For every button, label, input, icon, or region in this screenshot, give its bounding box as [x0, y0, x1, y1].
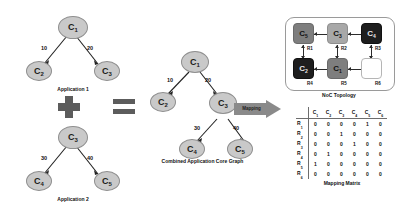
- app2-edge-weight-c3-c4: 30: [41, 155, 47, 161]
- matrix-cell: 0: [348, 119, 361, 130]
- matrix-cell: 0: [374, 119, 387, 130]
- plus-operator-icon: [58, 96, 80, 118]
- table-row: R1 0 0 0 0 1 0: [296, 119, 387, 130]
- matrix-col-header-c3: C3: [335, 107, 348, 119]
- noc-tile-r6: [361, 58, 382, 79]
- table-row: R6 0 0 0 0 0 0: [296, 169, 387, 179]
- matrix-cell: 0: [361, 139, 374, 149]
- matrix-cell: 0: [335, 169, 348, 179]
- matrix-cell: 0: [348, 169, 361, 179]
- combined-node-c5: C5: [227, 139, 253, 159]
- noc-router-label-r3: R3: [375, 46, 381, 51]
- matrix-cell: 0: [361, 149, 374, 159]
- application-1-caption: Application 1: [38, 86, 108, 92]
- mapping-matrix-caption: Mapping Matrix: [296, 180, 388, 186]
- matrix-cell: 0: [309, 139, 323, 149]
- matrix-cell: 1: [348, 139, 361, 149]
- combined-node-c1-label: C1: [190, 58, 200, 67]
- combined-node-c1: C1: [181, 51, 209, 73]
- app1-node-c1-label: C1: [68, 23, 78, 32]
- noc-router-label-r1: R1: [307, 46, 313, 51]
- matrix-row-header-r6: R6: [296, 169, 309, 179]
- matrix-cell: 1: [322, 149, 335, 159]
- noc-tile-r5: C1: [327, 58, 348, 79]
- equals-operator-icon: [113, 99, 135, 115]
- mapping-arrow: Mapping: [234, 100, 282, 118]
- noc-link-r3-r6-arrow-up-icon: [369, 45, 373, 48]
- combined-node-c5-label: C5: [235, 145, 245, 154]
- noc-tile-r2: C3: [327, 23, 348, 44]
- app2-node-c4-label: C4: [34, 177, 44, 186]
- app1-node-c1: C1: [58, 16, 88, 39]
- noc-tile-r1-core-label: C5: [299, 30, 308, 38]
- combined-graph-caption: Combined Application Core Graph: [145, 158, 260, 164]
- matrix-cell: 0: [335, 159, 348, 169]
- matrix-cell: 1: [309, 159, 323, 169]
- matrix-cell: 0: [309, 129, 323, 139]
- combined-node-c3: C3: [209, 92, 237, 114]
- matrix-cell: 0: [322, 139, 335, 149]
- combined-edge-weight-c3-c4: 30: [194, 125, 200, 131]
- matrix-cell: 0: [335, 139, 348, 149]
- matrix-cell: 0: [361, 159, 374, 169]
- matrix-cell: 0: [361, 129, 374, 139]
- mapping-arrow-label: Mapping: [236, 105, 267, 113]
- matrix-cell: 1: [361, 119, 374, 130]
- app1-node-c2: C2: [26, 61, 52, 81]
- app2-node-c5: C5: [94, 171, 120, 191]
- app1-edge-weight-c1-c3: 20: [87, 45, 93, 51]
- matrix-cell: 0: [348, 159, 361, 169]
- noc-link-r1-r2-arrow-left-icon: [314, 32, 317, 36]
- matrix-cell: 0: [374, 149, 387, 159]
- matrix-cell: 0: [374, 169, 387, 179]
- app2-node-c4: C4: [26, 171, 52, 191]
- matrix-cell: 0: [309, 169, 323, 179]
- noc-link-r1-r4-arrow-up-icon: [301, 45, 305, 48]
- noc-router-label-r4: R4: [307, 81, 313, 86]
- matrix-cell: 0: [309, 149, 323, 159]
- combined-node-c3-label: C3: [218, 99, 228, 108]
- noc-tile-r2-core-label: C3: [333, 30, 342, 38]
- matrix-cell: 0: [322, 159, 335, 169]
- matrix-corner-cell: [296, 107, 309, 119]
- matrix-cell: 0: [335, 149, 348, 159]
- matrix-row-header-r2: R2: [296, 129, 309, 139]
- table-row: R5 1 0 0 0 0 0: [296, 159, 387, 169]
- noc-tile-r3-core-label: C4: [367, 30, 376, 38]
- application-2-graph: C3 C4 C5 30 40 Application 2: [10, 118, 130, 203]
- matrix-row-header-r4: R4: [296, 149, 309, 159]
- noc-router-label-r6: R6: [375, 81, 381, 86]
- noc-tile-r4-core-label: C2: [299, 65, 308, 73]
- matrix-cell: 0: [322, 119, 335, 130]
- app2-node-c3-label: C3: [68, 133, 78, 142]
- app1-node-c3-label: C3: [102, 67, 112, 76]
- matrix-row-header-r1: R1: [296, 119, 309, 130]
- table-row: R3 0 0 0 1 0 0: [296, 139, 387, 149]
- combined-node-c2: C2: [150, 92, 176, 112]
- matrix-cell: 0: [322, 129, 335, 139]
- noc-tile-r3: C4: [361, 23, 382, 44]
- table-row: R4 0 1 0 0 0 0: [296, 149, 387, 159]
- matrix-col-header-c2: C2: [322, 107, 335, 119]
- noc-link-r4-r5-arrow-left-icon: [314, 67, 317, 71]
- combined-edge-weight-c1-c3: 20: [205, 77, 211, 83]
- matrix-cell: 0: [335, 119, 348, 130]
- matrix-row-header-r3: R3: [296, 139, 309, 149]
- matrix-cell: 0: [322, 169, 335, 179]
- matrix-cell: 0: [361, 169, 374, 179]
- combined-edge-weight-c3-c5: 40: [233, 125, 239, 131]
- matrix-cell: 0: [348, 149, 361, 159]
- matrix-col-header-c5: C5: [361, 107, 374, 119]
- noc-link-r2-r3-arrow-left-icon: [348, 32, 351, 36]
- matrix-cell: 1: [335, 129, 348, 139]
- app2-edge-weight-c3-c5: 40: [87, 155, 93, 161]
- mapping-matrix-table: C1 C2 C3 C4 C5 C6 R1 0 0 0 0 1 0 R2 0 0: [296, 107, 387, 179]
- matrix-cell: 0: [374, 139, 387, 149]
- noc-router-label-r2: R2: [341, 46, 347, 51]
- combined-node-c4: C4: [179, 139, 205, 159]
- noc-router-label-r5: R5: [341, 81, 347, 86]
- app2-node-c5-label: C5: [102, 177, 112, 186]
- table-row: R2 0 0 1 0 0 0: [296, 129, 387, 139]
- mapping-arrow-head-icon: [266, 100, 281, 118]
- matrix-cell: 0: [374, 129, 387, 139]
